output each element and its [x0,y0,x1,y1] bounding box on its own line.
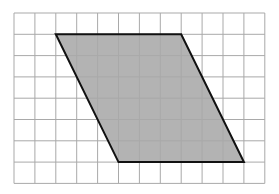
grid-diagram [0,0,279,194]
